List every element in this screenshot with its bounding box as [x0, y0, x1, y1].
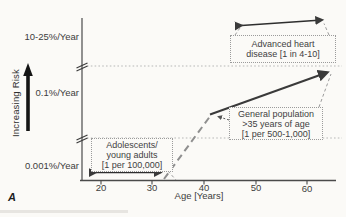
leader-adolescents-right [168, 171, 176, 180]
callout-general-population: General population >35 years of age [1 p… [229, 107, 323, 140]
x-tick-label-60: 60 [294, 184, 320, 194]
y-label-10-25: 10-25%/Year [9, 32, 79, 42]
callout-advanced-heart-disease: Advanced heart disease [1 in 4-10] [230, 35, 336, 63]
panel-label: A [8, 191, 16, 203]
advanced-disease-span-arrow [242, 20, 323, 26]
risk-vs-age-chart: 10-25%/Year 0.1%/Year 0.001%/Year Increa… [0, 0, 346, 217]
callout-adolescents: Adolescents/ young adults [1 per 100,000… [91, 138, 173, 172]
x-axis-title: Age [Years] [159, 191, 239, 201]
y-label-0.001: 0.001%/Year [9, 161, 79, 171]
general-junction-pointer-arrow [218, 117, 229, 121]
leader-general-right [319, 74, 331, 107]
x-tick-label-50: 50 [243, 183, 269, 193]
y-axis-title: Increasing Risk [10, 64, 22, 142]
x-tick-label-20: 20 [88, 183, 114, 193]
leader-advanced-right [324, 24, 329, 36]
scan-artifact-band [0, 210, 128, 213]
leader-advanced-left [235, 28, 240, 35]
